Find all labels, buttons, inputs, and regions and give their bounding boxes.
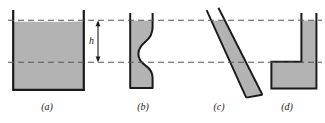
depth-dimension-arrow xyxy=(96,20,101,62)
dimension-arrowhead-up xyxy=(96,20,101,26)
liquid-fill-c xyxy=(195,21,275,101)
liquid-fill-d xyxy=(272,21,316,88)
panel-caption-b: (b) xyxy=(123,101,163,113)
panel-a-rectangular-tank xyxy=(13,11,84,90)
panel-caption-a: (a) xyxy=(27,101,67,113)
liquid-fill-b xyxy=(130,21,152,88)
depth-label: h xyxy=(89,36,94,46)
panel-caption-d: (d) xyxy=(267,101,307,113)
liquid-fill-a xyxy=(14,21,83,89)
dimension-arrowhead-down xyxy=(96,56,101,62)
pressure-depth-figure: h (a) (b) (c) (d) xyxy=(0,0,325,123)
panel-b-curved-tube xyxy=(130,13,152,88)
panel-d-l-vessel xyxy=(271,13,316,89)
panel-c-tilted-slab xyxy=(195,8,275,101)
panel-caption-c: (c) xyxy=(199,101,239,113)
